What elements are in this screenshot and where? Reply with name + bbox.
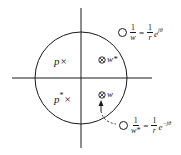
zero-w-icon [99, 92, 105, 98]
numerator: 1 [133, 116, 139, 126]
arrow-icon [99, 100, 104, 111]
pole-p-label: p× [54, 56, 67, 67]
fraction-1-over-r: 1 r [147, 23, 153, 42]
dashed-connector [101, 111, 116, 124]
fraction-1-over-w-conj: 1 w* [131, 116, 140, 135]
numerator: 1 [130, 23, 136, 33]
pole-p-text: p [54, 55, 60, 67]
zero-w-conj-icon [99, 57, 105, 63]
exp-power: jθ [158, 27, 163, 33]
exponential: ejθ [154, 27, 163, 39]
numerator: 1 [147, 23, 153, 33]
zero-outside-circle-icon [119, 121, 128, 130]
denominator: w* [131, 126, 140, 135]
conj-star: * [60, 91, 64, 100]
zero-w-label: w [107, 90, 113, 99]
fraction-1-over-r: 1 r [151, 116, 157, 135]
denominator: r [149, 33, 152, 42]
w-conj-text: w* [107, 54, 118, 64]
equals-sign: = [143, 121, 148, 131]
exp-power: −jθ [162, 120, 171, 126]
zero-w-conj-label: w* [107, 55, 118, 64]
denominator: r [153, 126, 156, 135]
zero-outside-circle-icon [118, 28, 127, 37]
exponential: e−jθ [158, 120, 171, 132]
formula-reciprocal-w-conj: 1 w* = 1 r e−jθ [119, 116, 171, 135]
formula-reciprocal-w: 1 w = 1 r ejθ [118, 23, 163, 42]
pole-marker-icon: × [61, 55, 67, 67]
equals-sign: = [139, 28, 144, 38]
numerator: 1 [151, 116, 157, 126]
fraction-1-over-w: 1 w [130, 23, 136, 42]
pole-marker-icon: × [65, 93, 71, 105]
w-text: w [107, 89, 113, 99]
denominator: w [130, 33, 135, 42]
pole-p-conj-label: p*× [54, 92, 71, 105]
